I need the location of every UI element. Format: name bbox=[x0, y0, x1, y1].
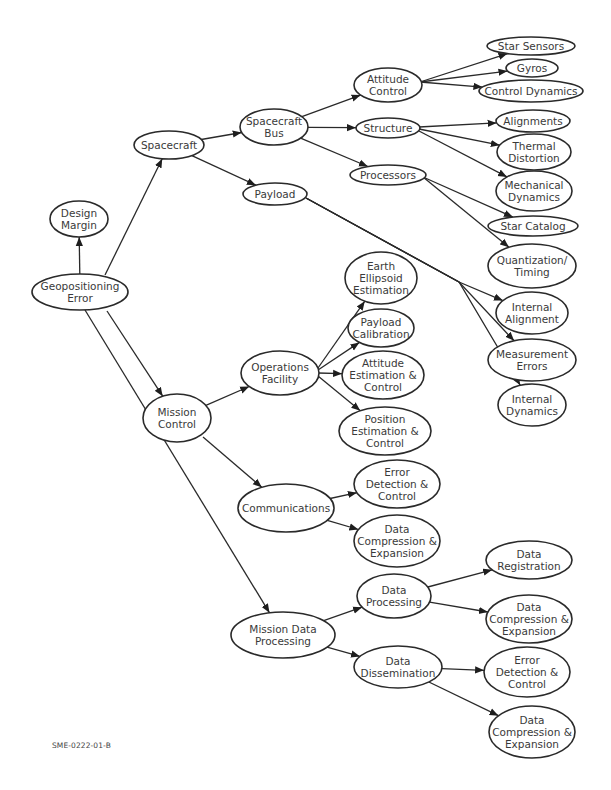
node-posest: PositionEstimation &Control bbox=[339, 407, 431, 455]
node-structure: Structure bbox=[356, 118, 420, 138]
edge-mission-to-comm bbox=[203, 437, 262, 487]
node-align: Alignments bbox=[496, 110, 570, 132]
node-spacecraft: Spacecraft bbox=[134, 131, 204, 159]
node-label: Data bbox=[519, 714, 544, 726]
node-label: Internal bbox=[512, 301, 552, 313]
node-label: Star Catalog bbox=[500, 220, 565, 232]
edge-ops-to-attest bbox=[318, 373, 342, 374]
node-label: Facility bbox=[262, 373, 298, 385]
node-label: Data bbox=[385, 655, 410, 667]
node-label: Spacecraft bbox=[141, 139, 197, 151]
node-label: Data bbox=[384, 523, 409, 535]
node-comm_err: ErrorDetection &Control bbox=[354, 460, 440, 508]
edge-geo-to-spacecraft bbox=[105, 159, 162, 275]
geopositioning-error-tree-diagram: GeopositioningErrorDesignMarginSpacecraf… bbox=[0, 0, 611, 790]
node-label: Communications bbox=[242, 502, 330, 514]
edge-bus-to-processors bbox=[301, 138, 368, 166]
node-label: Mechanical bbox=[504, 179, 563, 191]
node-dataproc: DataProcessing bbox=[357, 574, 431, 618]
node-design: DesignMargin bbox=[50, 201, 108, 237]
edge-attctl-to-ctldyn bbox=[420, 82, 482, 87]
node-label: Error bbox=[384, 466, 410, 478]
node-label: Attitude bbox=[362, 357, 404, 369]
edge-comm-to-comm_dce bbox=[327, 520, 358, 529]
node-label: Compression & bbox=[492, 726, 572, 738]
node-attctl: AttitudeControl bbox=[354, 68, 422, 102]
edge-dissem-to-dissem_dce bbox=[429, 682, 499, 716]
node-label: Processors bbox=[360, 169, 416, 181]
node-label: Processing bbox=[366, 596, 422, 608]
node-label: Payload bbox=[361, 316, 402, 328]
edge-spacecraft-to-payload bbox=[192, 156, 256, 186]
node-label: Control bbox=[158, 418, 196, 430]
node-label: Operations bbox=[251, 361, 309, 373]
edge-mdp-to-dissem bbox=[327, 647, 360, 656]
node-label: Design bbox=[61, 207, 97, 219]
node-label: Structure bbox=[364, 122, 413, 134]
node-thermal: ThermalDistortion bbox=[497, 134, 571, 170]
node-label: Calibration bbox=[352, 328, 409, 340]
edge-mdp-to-dataproc bbox=[324, 607, 362, 621]
node-processors: Processors bbox=[350, 165, 426, 185]
node-label: Estimation & bbox=[349, 369, 416, 381]
node-label: Errors bbox=[516, 360, 547, 372]
node-label: Registration bbox=[497, 560, 560, 572]
node-paycal: PayloadCalibration bbox=[348, 309, 414, 347]
node-payload: Payload bbox=[243, 183, 307, 205]
node-mechdyn: MechanicalDynamics bbox=[496, 171, 572, 211]
node-mdp: Mission DataProcessing bbox=[231, 612, 335, 658]
node-label: Payload bbox=[255, 188, 296, 200]
node-label: Data bbox=[381, 584, 406, 596]
node-label: Control bbox=[508, 678, 546, 690]
edge-dissem-to-dissem_err bbox=[442, 669, 484, 671]
node-label: Mission bbox=[158, 406, 197, 418]
edge-attctl-to-gyros bbox=[420, 71, 508, 82]
node-label: Attitude bbox=[367, 73, 409, 85]
node-intdyn: InternalDynamics bbox=[498, 384, 566, 426]
node-label: Dynamics bbox=[506, 405, 558, 417]
node-geo: GeopositioningError bbox=[32, 274, 128, 310]
node-label: Estimation & bbox=[351, 425, 418, 437]
node-label: Control bbox=[366, 437, 404, 449]
node-measerr: MeasurementErrors bbox=[488, 339, 576, 381]
node-label: Alignment bbox=[505, 313, 559, 325]
edge-geo-to-design bbox=[79, 237, 80, 274]
node-label: Control bbox=[364, 381, 402, 393]
node-attest: AttitudeEstimation &Control bbox=[342, 351, 424, 399]
edge-mission-to-ops bbox=[206, 387, 249, 406]
figure-code-label: SME-0222-01-B bbox=[52, 741, 111, 750]
node-ops: OperationsFacility bbox=[241, 351, 319, 395]
node-label: Position bbox=[365, 413, 406, 425]
node-label: Distortion bbox=[508, 152, 559, 164]
node-datareg: DataRegistration bbox=[486, 541, 572, 579]
edge-bus-to-attctl bbox=[302, 95, 361, 117]
node-label: Gyros bbox=[517, 62, 547, 74]
node-proc_dce: DataCompression &Expansion bbox=[486, 595, 572, 643]
node-label: Thermal bbox=[511, 140, 555, 152]
node-label: Bus bbox=[264, 127, 283, 139]
node-gyros: Gyros bbox=[506, 59, 558, 77]
node-label: Data bbox=[516, 548, 541, 560]
node-label: Expansion bbox=[505, 738, 559, 750]
node-comm: Communications bbox=[238, 484, 334, 532]
node-label: Error bbox=[67, 292, 93, 304]
node-starcat: Star Catalog bbox=[488, 216, 578, 236]
node-intalign: InternalAlignment bbox=[496, 292, 568, 334]
edge-structure-to-align bbox=[419, 123, 497, 127]
node-dissem: DataDissemination bbox=[354, 646, 442, 688]
node-label: Expansion bbox=[370, 547, 424, 559]
node-label: Detection & bbox=[366, 478, 429, 490]
node-label: Geopositioning bbox=[41, 280, 120, 292]
node-quant: Quantization/Timing bbox=[488, 244, 576, 288]
node-label: Star Sensors bbox=[498, 40, 564, 52]
node-label: Control bbox=[369, 85, 407, 97]
node-ctldyn: Control Dynamics bbox=[479, 80, 583, 102]
node-label: Expansion bbox=[502, 625, 556, 637]
node-label: Dynamics bbox=[508, 191, 560, 203]
node-label: Compression & bbox=[357, 535, 437, 547]
node-label: Ellipsoid bbox=[359, 272, 403, 284]
node-label: Earth bbox=[367, 260, 395, 272]
node-mission: MissionControl bbox=[143, 394, 211, 442]
edge-dataproc-to-datareg bbox=[428, 570, 492, 587]
node-label: Margin bbox=[61, 219, 97, 231]
